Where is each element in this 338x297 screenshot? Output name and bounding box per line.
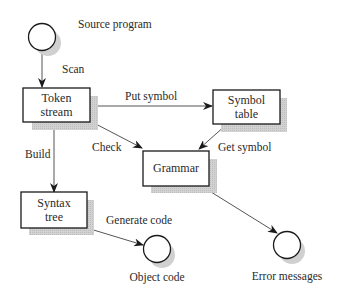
edge-error [203,187,277,233]
node-error-messages: Error messages [252,232,323,284]
diagram-canvas: Scan Put symbol Check Get symbol Build G… [0,0,338,297]
diagram-svg: Scan Put symbol Check Get symbol Build G… [0,0,338,297]
node-grammar: Grammar [143,151,217,193]
edge-label-scan: Scan [62,63,85,75]
syntax-tree-label-2: tree [45,210,63,224]
node-token-stream: Token stream [23,88,98,130]
node-source-program: Source program [29,18,152,56]
edge-label-build: Build [25,148,51,160]
symbol-table-label-1: Symbol [228,93,266,107]
edge-label-get-symbol: Get symbol [218,141,271,154]
syntax-tree-label-1: Syntax [37,196,70,210]
edge-label-check: Check [92,141,122,153]
node-syntax-tree: Syntax tree [21,192,94,235]
node-object-code: Object code [129,236,184,285]
node-symbol-table: Symbol table [213,90,287,132]
token-stream-label-2: stream [41,105,74,119]
error-messages-label: Error messages [252,270,323,283]
source-program-label: Source program [78,18,152,31]
symbol-table-label-2: table [235,107,258,121]
object-code-label: Object code [129,271,184,284]
token-stream-label-1: Token [42,91,72,105]
edge-label-generate-code: Generate code [106,214,172,226]
edge-label-put-symbol: Put symbol [125,90,177,103]
edge-generate-code [87,228,143,245]
grammar-label: Grammar [153,161,199,175]
